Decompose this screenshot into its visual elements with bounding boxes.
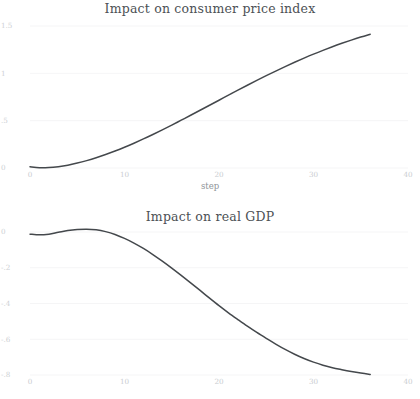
x-tick-label: 10: [120, 377, 130, 386]
y-tick-label: 0: [1, 163, 6, 172]
x-tick-label: 20: [214, 170, 224, 179]
y-tick-label: 1.5: [1, 21, 13, 30]
y-tick-label: -.6: [1, 335, 11, 344]
y-tick-label: .5: [1, 116, 8, 125]
y-tick-label: -.4: [1, 299, 11, 308]
y-tick-label: 1: [1, 69, 6, 78]
x-tick-label: 30: [309, 377, 319, 386]
x-tick-label: 40: [403, 377, 413, 386]
y-tick-label: 0: [1, 227, 6, 236]
panel-real-gdp: Impact on real GDP 0-.2-.4-.6-.801020304…: [0, 199, 420, 399]
x-tick-label: 10: [120, 170, 130, 179]
plot-area-gdp: 0-.2-.4-.6-.8010203040: [0, 199, 420, 399]
plot-area-cpi: 0.511.5010203040: [0, 0, 420, 200]
x-tick-label: 30: [309, 170, 319, 179]
x-tick-label: 0: [28, 170, 33, 179]
data-line-cpi_irf: [30, 34, 370, 168]
irf-figure: Impact on consumer price index 0.511.501…: [0, 0, 420, 399]
x-tick-label: 40: [403, 170, 413, 179]
y-tick-label: -.8: [1, 370, 11, 379]
x-tick-label: 20: [214, 377, 224, 386]
x-tick-label: 0: [28, 377, 33, 386]
data-line-gdp_irf: [30, 229, 370, 374]
panel-consumer-price-index: Impact on consumer price index 0.511.501…: [0, 0, 420, 200]
x-axis-label-cpi: step: [0, 181, 420, 191]
y-tick-label: -.2: [1, 263, 10, 272]
